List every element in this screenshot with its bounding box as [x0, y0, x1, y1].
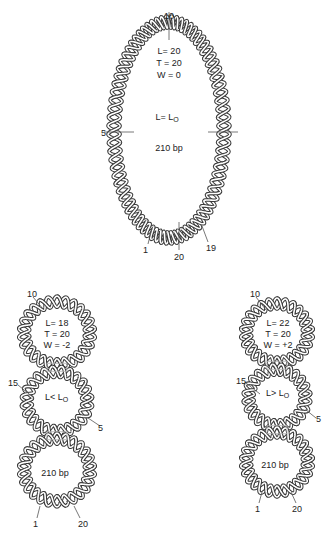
writhe-relaxed: W = 0	[157, 70, 181, 80]
marker-tick-19-relaxed	[202, 226, 208, 242]
linking-number-positive: L= 22	[267, 318, 290, 328]
twist-relaxed: T = 20	[156, 58, 182, 68]
writhe-positive: W = +2	[263, 340, 292, 350]
marker-20-positive: 20	[292, 504, 302, 514]
size-positive: 210 bp	[261, 460, 289, 470]
marker-tick-20-negative	[74, 506, 80, 518]
relation-negative: L< LO	[45, 392, 68, 405]
marker-19-relaxed: 19	[206, 243, 216, 253]
marker-10-positive: 10	[250, 289, 260, 299]
marker-1-relaxed: 1	[143, 245, 148, 255]
linking-number-relaxed: L= 20	[158, 46, 181, 56]
marker-tick-5-positive	[306, 410, 316, 418]
relation-positive: L> LO	[266, 388, 289, 401]
marker-15-positive: 15	[236, 376, 246, 386]
marker-tick-1-negative	[37, 506, 40, 518]
twist-positive: T = 20	[265, 329, 291, 339]
marker-5-relaxed: 5	[101, 128, 106, 138]
marker-10-negative: 10	[27, 289, 37, 299]
writhe-negative: W = -2	[44, 340, 71, 350]
marker-15-negative: 15	[8, 378, 18, 388]
size-negative: 210 bp	[41, 468, 69, 478]
linking-number-negative: L= 18	[46, 318, 69, 328]
marker-5-positive: 5	[316, 414, 321, 424]
marker-5-negative: 5	[98, 423, 103, 433]
marker-20-relaxed: 20	[174, 252, 184, 262]
marker-20-negative: 20	[78, 519, 88, 529]
size-relaxed: 210 bp	[155, 143, 183, 153]
marker-1-negative: 1	[33, 519, 38, 529]
relation-relaxed: L= LO	[155, 112, 178, 125]
marker-1-positive: 1	[255, 504, 260, 514]
dna-diagram-canvas	[0, 0, 332, 535]
marker-10-relaxed: 10	[164, 11, 174, 21]
twist-negative: T = 20	[44, 329, 70, 339]
